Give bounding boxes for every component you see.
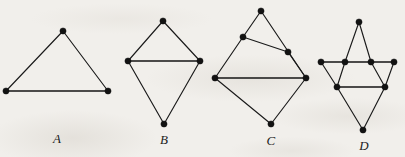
graph-vertex xyxy=(382,84,388,90)
graph-vertex xyxy=(60,28,66,34)
graph-vertex xyxy=(342,59,348,65)
graph-vertex xyxy=(303,75,309,81)
graph-vertex xyxy=(368,59,374,65)
graph-edge xyxy=(288,52,306,78)
figure-label-a: A xyxy=(53,131,61,147)
graph-edge xyxy=(321,62,337,87)
graph-vertex xyxy=(161,121,167,127)
graph-vertex xyxy=(3,88,9,94)
graph-edge xyxy=(271,78,306,124)
graph-vertex xyxy=(318,59,324,65)
graph-edge xyxy=(215,37,243,78)
graph-edge xyxy=(371,62,385,87)
graph-vertex xyxy=(240,34,246,40)
graph-edge xyxy=(385,62,394,87)
figure-plate: ABCD xyxy=(0,0,405,157)
graph-edge xyxy=(337,62,345,87)
figure-c-vertices xyxy=(212,8,309,127)
graph-edge xyxy=(243,37,288,52)
figure-a-edges xyxy=(6,31,108,91)
graph-vertex xyxy=(391,59,397,65)
figure-d-edges xyxy=(321,22,394,130)
graph-vertex xyxy=(334,84,340,90)
graph-edge xyxy=(363,87,385,130)
graph-edge xyxy=(128,21,163,61)
graph-vertex xyxy=(360,127,366,133)
figure-label-c: C xyxy=(267,133,276,149)
graph-edge xyxy=(337,87,363,130)
figure-c-edges xyxy=(215,11,306,124)
figure-label-d: D xyxy=(359,138,369,154)
figure-b-vertices xyxy=(125,18,203,127)
graph-vertex xyxy=(356,19,362,25)
graph-vertex xyxy=(212,75,218,81)
graph-edge xyxy=(163,21,200,61)
figure-label-b: B xyxy=(160,132,168,148)
graph-vertex xyxy=(160,18,166,24)
graph-vertex xyxy=(285,49,291,55)
graph-edge xyxy=(164,61,200,124)
graph-vertex xyxy=(125,58,131,64)
vertices-layer xyxy=(3,8,397,133)
graph-edge xyxy=(215,78,271,124)
graph-edge xyxy=(63,31,108,91)
graph-vertex xyxy=(258,8,264,14)
figure-b-edges xyxy=(128,21,200,124)
graph-vertex xyxy=(197,58,203,64)
graph-vertex xyxy=(105,88,111,94)
graph-edge xyxy=(359,22,371,62)
graph-edge xyxy=(128,61,164,124)
graph-edge xyxy=(345,22,359,62)
graph-vertex xyxy=(268,121,274,127)
graph-edge xyxy=(243,11,261,37)
graph-edge xyxy=(6,31,63,91)
